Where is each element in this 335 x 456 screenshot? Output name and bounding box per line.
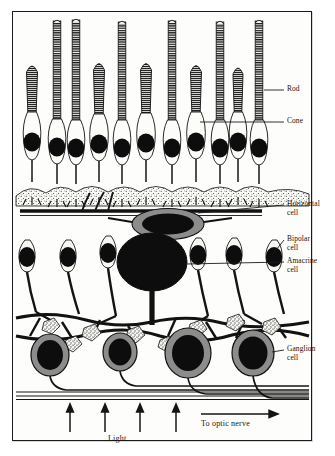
bipolar-cell — [19, 240, 36, 312]
amacrine-cell — [117, 233, 187, 325]
bipolar-cell — [60, 240, 79, 314]
optic-nerve-arrow — [201, 410, 278, 417]
outer-segment-layer — [27, 19, 263, 120]
cone-outer-segment — [27, 66, 38, 112]
retina-diagram-figure: Rod Cone Horizontal cell Bipolar cell Am… — [0, 0, 335, 456]
cone-outer-segment — [233, 68, 243, 112]
inner-nuclear-layer — [19, 233, 284, 325]
nerve-fiber-layer — [16, 392, 309, 400]
light-arrow — [102, 404, 109, 432]
label-horizontal-cell: Horizontal cell — [287, 200, 320, 217]
light-arrow — [173, 404, 180, 432]
rod-outer-segment-labelled — [255, 20, 263, 120]
label-ganglion-cell: Ganglion cell — [287, 345, 315, 362]
rod-outer-segment — [168, 20, 176, 120]
retina-artwork — [0, 0, 335, 456]
cone-outer-segment — [141, 64, 152, 114]
light-arrow — [137, 404, 144, 432]
rod-outer-segment — [118, 21, 126, 120]
label-cone: Cone — [287, 117, 303, 126]
label-bipolar-cell: Bipolar cell — [287, 235, 310, 252]
rod-outer-segment — [216, 21, 224, 120]
label-amacrine-cell: Amacrine cell — [287, 257, 317, 274]
label-light: Light — [108, 434, 126, 443]
cone-outer-segment — [94, 64, 105, 115]
label-rod: Rod — [287, 85, 300, 94]
outer-nuclear-layer — [23, 112, 268, 184]
rod-outer-segment — [53, 20, 61, 119]
bipolar-cell — [190, 238, 208, 316]
bipolar-cell — [100, 236, 116, 316]
light-arrow — [67, 404, 74, 432]
ganglion-cell — [232, 330, 309, 398]
rod-outer-segment — [72, 19, 80, 120]
outer-plexiform-layer — [16, 187, 309, 240]
bipolar-cell — [226, 238, 244, 314]
light-arrows — [67, 404, 180, 432]
cone-outer-segment — [191, 66, 202, 113]
label-optic-nerve: To optic nerve — [201, 419, 250, 428]
